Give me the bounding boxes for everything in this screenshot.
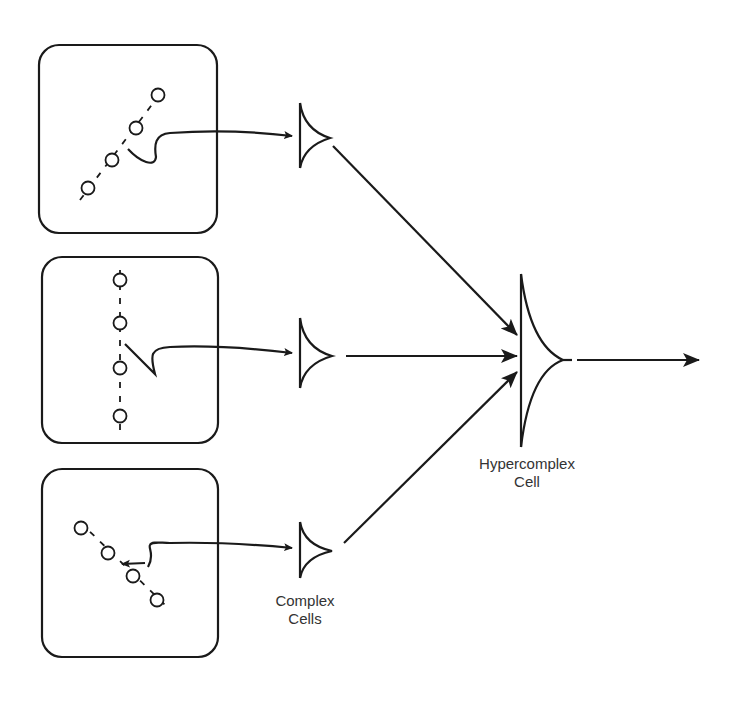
complex-cells-label-line2: Cells xyxy=(288,610,321,627)
connection-1 xyxy=(333,146,517,335)
receptive-field-vertical xyxy=(42,257,292,443)
complex-cells-label-line1: Complex xyxy=(275,592,335,609)
receptive-field-diagonal-down xyxy=(42,469,292,657)
hypercomplex-label-line1: Hypercomplex xyxy=(479,455,575,472)
hypercomplex-cell-diagram: Complex Cells Hypercomplex Cell xyxy=(0,0,736,701)
complex-cell-2 xyxy=(300,318,332,388)
hypercomplex-cell xyxy=(521,274,572,447)
complex-cell-3 xyxy=(300,522,332,578)
receptive-field-diagonal-up xyxy=(39,45,292,233)
complex-cell-1 xyxy=(300,103,330,168)
hypercomplex-label-line2: Cell xyxy=(514,473,540,490)
